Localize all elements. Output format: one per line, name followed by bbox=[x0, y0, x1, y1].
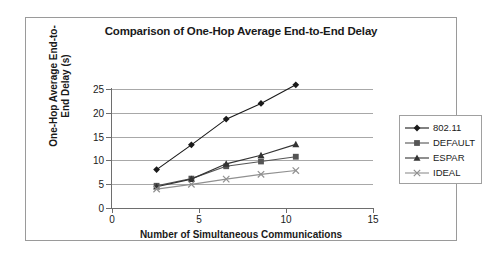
y-axis-tick bbox=[106, 184, 111, 185]
y-axis-tick bbox=[106, 137, 111, 138]
y-axis-tick bbox=[106, 89, 111, 90]
gridline bbox=[112, 160, 373, 161]
series-802-11 bbox=[153, 81, 299, 173]
x-axis-tick-label: 5 bbox=[184, 214, 214, 225]
legend-label: DEFAULT bbox=[433, 137, 475, 148]
legend-label: 802.11 bbox=[433, 122, 461, 133]
series-espar bbox=[153, 141, 299, 190]
x-axis-tick bbox=[286, 208, 287, 213]
chart-frame: Comparison of One-Hop Average End-to-End… bbox=[25, 17, 457, 241]
legend-marker-triangle-icon bbox=[404, 151, 430, 165]
legend-item-ideal[interactable]: IDEAL bbox=[400, 165, 481, 180]
gridline bbox=[112, 89, 373, 90]
y-axis-tick bbox=[106, 113, 111, 114]
gridline bbox=[112, 184, 373, 185]
y-axis-tick-labels: 0510152025 bbox=[72, 18, 104, 240]
legend-label: ESPAR bbox=[433, 152, 465, 163]
y-axis-line bbox=[111, 88, 112, 209]
legend-label: IDEAL bbox=[433, 167, 460, 178]
series-ideal bbox=[153, 167, 299, 192]
x-axis-tick bbox=[373, 208, 374, 213]
legend-item-default[interactable]: DEFAULT bbox=[400, 135, 481, 150]
y-axis-title: One-Hop Average End-to- End Delay (s) bbox=[48, 22, 72, 150]
x-axis-tick-label: 0 bbox=[97, 214, 127, 225]
gridline bbox=[112, 113, 373, 114]
y-axis-tick-label: 10 bbox=[76, 155, 104, 166]
chart-legend: 802.11DEFAULTESPARIDEAL bbox=[399, 115, 482, 184]
legend-item-espar[interactable]: ESPAR bbox=[400, 150, 481, 165]
legend-marker-diamond-icon bbox=[404, 121, 430, 135]
legend-marker-square-icon bbox=[404, 136, 430, 150]
y-axis-title-line-2: End Delay (s) bbox=[60, 22, 72, 150]
x-axis-tick-label: 15 bbox=[358, 214, 388, 225]
y-axis-tick-label: 25 bbox=[76, 84, 104, 95]
x-axis-tick-label: 10 bbox=[271, 214, 301, 225]
y-axis-tick-label: 15 bbox=[76, 131, 104, 142]
y-axis-tick-label: 0 bbox=[76, 203, 104, 214]
y-axis-title-line-1: One-Hop Average End-to- bbox=[48, 22, 60, 150]
gridline bbox=[112, 137, 373, 138]
x-axis-tick bbox=[199, 208, 200, 213]
legend-item-802-11[interactable]: 802.11 bbox=[400, 120, 481, 135]
x-axis-tick bbox=[112, 208, 113, 213]
y-axis-tick-label: 5 bbox=[76, 179, 104, 190]
legend-marker-cross-icon bbox=[404, 166, 430, 180]
y-axis-tick-label: 20 bbox=[76, 107, 104, 118]
x-axis-line bbox=[112, 208, 374, 209]
y-axis-tick bbox=[106, 208, 111, 209]
y-axis-tick bbox=[106, 160, 111, 161]
x-axis-title: Number of Simultaneous Communications bbox=[66, 229, 416, 240]
